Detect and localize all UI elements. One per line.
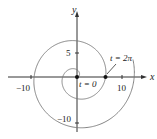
x-axis-arrow-icon (141, 75, 147, 79)
t-zero-label: t = 0 (79, 79, 97, 89)
t-2pi-leader-line (107, 64, 116, 74)
y-tick-label-neg10: −10 (57, 114, 72, 124)
t-2pi-point (104, 75, 108, 79)
y-axis-label: y (71, 4, 77, 15)
t-2pi-label: t = 2π (110, 53, 133, 63)
spiral-diagram: x y −10 10 5 −10 t = 0 t = 2π (0, 0, 157, 139)
x-tick-label-10: 10 (117, 83, 127, 93)
x-tick-label-neg10: −10 (16, 83, 31, 93)
y-tick-label-5: 5 (66, 48, 71, 58)
x-axis-label: x (149, 71, 155, 82)
